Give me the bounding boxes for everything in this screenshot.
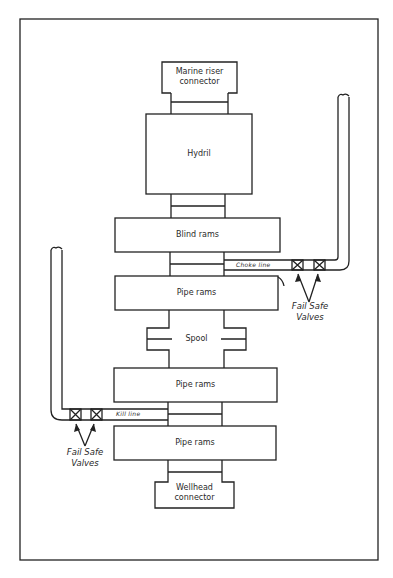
kill-fail-safe-valves-label: Fail Safe Valves [63,447,107,469]
hydril-label: Hydril [146,149,252,159]
choke-fail-safe-valve-2 [314,260,325,270]
spool-label: Spool [169,334,224,344]
kill-valves-label-line2: Valves [63,458,107,469]
choke-line-pipe-outer [224,97,349,270]
choke-valves-label-line1: Fail Safe [288,301,332,312]
leader-mark [278,277,284,286]
choke-valves-label-line2: Valves [288,312,332,323]
kill-valves-label-line1: Fail Safe [63,447,107,458]
spacer [171,194,225,218]
choke-valve-arrows [298,274,318,302]
pipe-rams-1-label: Pipe rams [115,288,278,298]
spacer [168,402,222,426]
choke-fail-safe-valves-label: Fail Safe Valves [288,301,332,323]
kill-line-label: Kill line [116,410,140,417]
riser-neck [171,93,228,114]
marine-riser-label-line1: Marine riser [162,67,237,77]
pipe-rams-3-label: Pipe rams [114,438,276,448]
marine-riser-connector-label: Marine riser connector [162,67,237,87]
wellhead-connector-label: Wellhead connector [155,483,234,503]
choke-line-label: Choke line [236,261,271,268]
kill-fail-safe-valve-2 [91,409,102,420]
marine-riser-label-line2: connector [162,77,237,87]
blind-rams-label: Blind rams [115,230,280,240]
wellhead-label-line1: Wellhead [155,483,234,493]
choke-fail-safe-valve-1 [292,260,303,270]
choke-pipe-top [338,94,349,97]
kill-valve-arrows [76,424,94,446]
pipe-rams-2-label: Pipe rams [114,380,277,390]
wellhead-label-line2: connector [155,493,234,503]
spacer [170,252,224,276]
kill-fail-safe-valve-1 [70,409,81,420]
kill-pipe-top [51,247,62,250]
